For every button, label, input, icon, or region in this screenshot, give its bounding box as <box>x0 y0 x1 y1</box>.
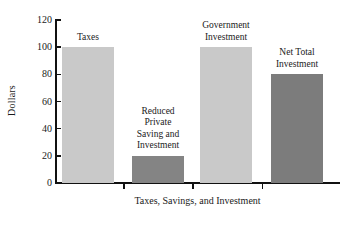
bar <box>200 47 252 183</box>
x-tick-mark <box>262 183 264 189</box>
bar-label: Reduced Private Saving and Investment <box>113 106 203 152</box>
bar <box>271 74 323 183</box>
bar-label: Government Investment <box>181 20 271 43</box>
y-tick-label: 60 <box>12 97 52 107</box>
bar-label: Net Total Investment <box>252 47 342 70</box>
y-tick-mark <box>55 182 61 184</box>
y-tick-mark <box>55 101 61 103</box>
y-tick-mark <box>55 128 61 130</box>
y-tick-mark <box>55 74 61 76</box>
y-tick-mark <box>55 46 61 48</box>
y-tick-label: 20 <box>12 151 52 161</box>
x-tick-mark <box>123 183 125 189</box>
x-axis-title: Taxes, Savings, and Investment <box>55 195 340 206</box>
bar <box>132 156 184 183</box>
y-tick-label: 120 <box>12 15 52 25</box>
x-tick-mark <box>192 183 194 189</box>
y-tick-mark <box>55 155 61 157</box>
bar <box>62 47 114 183</box>
y-tick-label: 40 <box>12 124 52 134</box>
y-tick-label: 80 <box>12 69 52 79</box>
y-tick-label: 100 <box>12 42 52 52</box>
y-tick-label: 0 <box>12 178 52 188</box>
bar-chart: Dollars 020406080100120 TaxesReduced Pri… <box>0 0 344 225</box>
bar-label: Taxes <box>43 32 133 44</box>
y-tick-mark <box>55 19 61 21</box>
